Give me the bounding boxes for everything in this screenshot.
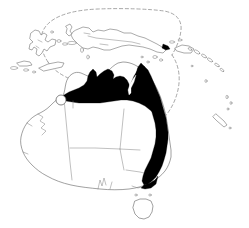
islet-papua-south-2: [141, 56, 143, 58]
islet-moluccas-1: [57, 40, 61, 43]
distribution-map-figure: [0, 0, 249, 228]
islet-loyalty: [229, 127, 231, 129]
islet-moluccas-3: [51, 31, 54, 33]
islet-vanuatu-2: [226, 95, 228, 99]
islet-vanuatu-4: [227, 108, 229, 110]
islet-sunda-small-2: [32, 71, 35, 73]
islet-aru: [87, 55, 90, 59]
islet-sunda-small: [23, 69, 28, 71]
kimberley-record-marker: [56, 95, 66, 105]
islet-vanuatu-1: [205, 80, 207, 83]
islet-flinders-island: [149, 194, 152, 196]
islet-buru: [81, 48, 84, 53]
islet-sumba: [10, 67, 17, 70]
islet-king-island: [135, 194, 137, 196]
islet-coral-sea: [191, 65, 193, 67]
islet-new-ireland: [169, 41, 174, 43]
islet-vanuatu-3: [230, 102, 232, 105]
islet-dentrecasteaux: [153, 56, 157, 59]
islet-ceram: [68, 41, 77, 44]
islet-manus: [178, 39, 182, 41]
islet-louisiade: [159, 59, 162, 61]
map-canvas: [0, 0, 249, 228]
islet-papua-south: [147, 61, 150, 63]
islet-moluccas-2: [62, 43, 67, 45]
